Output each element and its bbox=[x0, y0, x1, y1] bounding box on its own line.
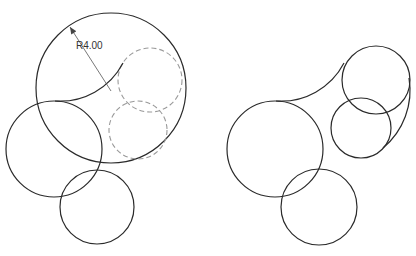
lower-right-circle bbox=[331, 98, 391, 158]
radius-dimension-label: R4.00 bbox=[76, 40, 103, 51]
left-circle bbox=[227, 101, 323, 197]
bottom-circle bbox=[281, 169, 357, 245]
cad-drawing: R4.00 bbox=[0, 0, 416, 256]
upper-inner-circle-dashed bbox=[118, 48, 182, 112]
drawing-canvas: R4.00 bbox=[0, 0, 416, 256]
radius-leader-line bbox=[70, 27, 111, 91]
bottom-circle bbox=[60, 170, 134, 244]
figure-left: R4.00 bbox=[6, 13, 186, 244]
fillet-arc bbox=[55, 63, 123, 101]
left-circle bbox=[6, 101, 102, 197]
fillet-arc bbox=[276, 63, 344, 101]
lower-inner-circle-dashed bbox=[109, 101, 167, 159]
upper-right-circle bbox=[342, 46, 410, 114]
figure-right bbox=[227, 46, 410, 245]
